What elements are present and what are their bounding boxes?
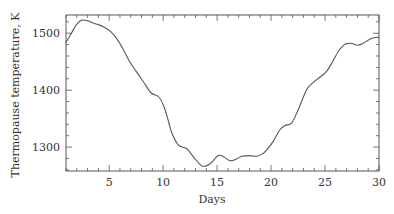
axis-ticks bbox=[66, 15, 379, 171]
y-axis-tick-labels: 130014001500 bbox=[32, 27, 60, 154]
plot-frame bbox=[66, 15, 379, 171]
y-tick-label: 1400 bbox=[32, 84, 60, 97]
x-axis-tick-labels: 51015202530 bbox=[106, 176, 386, 189]
x-axis-title: Days bbox=[198, 193, 226, 206]
x-tick-label: 5 bbox=[106, 176, 113, 189]
y-tick-label: 1500 bbox=[32, 27, 60, 40]
y-tick-label: 1300 bbox=[32, 141, 60, 154]
x-tick-label: 30 bbox=[372, 176, 386, 189]
x-tick-label: 20 bbox=[264, 176, 278, 189]
temperature-line bbox=[66, 20, 379, 166]
x-tick-label: 25 bbox=[318, 176, 332, 189]
y-axis-title: Thermopause temperature, K bbox=[9, 12, 22, 178]
line-chart: 51015202530 130014001500 Days Thermopaus… bbox=[0, 0, 394, 214]
x-tick-label: 10 bbox=[156, 176, 170, 189]
x-tick-label: 15 bbox=[210, 176, 224, 189]
